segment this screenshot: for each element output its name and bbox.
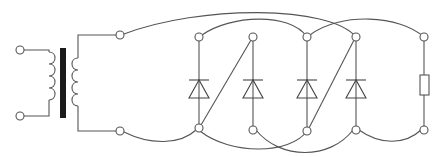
diode-2 xyxy=(243,40,263,127)
node-col4-bottom xyxy=(352,126,360,134)
output-terminal-top xyxy=(420,33,428,41)
wire-bottom-arc-1 xyxy=(124,130,196,142)
load-resistor xyxy=(420,40,429,127)
node-col4-top xyxy=(352,33,360,41)
secondary-winding xyxy=(72,35,117,131)
wire-diagonal-2 xyxy=(309,40,354,128)
diode-1 xyxy=(189,40,209,125)
diode-4 xyxy=(346,40,366,127)
output-terminal-bottom xyxy=(420,126,428,134)
diode-3 xyxy=(297,40,317,128)
transformer-core xyxy=(60,48,66,118)
wire-bottom-arc-4 xyxy=(359,130,421,141)
input-terminal-top xyxy=(16,46,24,54)
node-col1-bottom xyxy=(195,124,203,132)
node-col2-top xyxy=(249,33,257,41)
wire-diagonal-1 xyxy=(201,40,251,125)
circuit-diagram xyxy=(0,0,442,157)
node-col3-bottom xyxy=(303,127,311,135)
wire-top-arc-outer xyxy=(124,13,356,37)
node-col1-top xyxy=(195,33,203,41)
input-terminal-bottom xyxy=(16,112,24,120)
secondary-terminal-top xyxy=(116,31,124,39)
secondary-terminal-bottom xyxy=(116,127,124,135)
node-col3-top xyxy=(303,33,311,41)
wire-arc-col3-out xyxy=(310,19,424,37)
node-col2-bottom xyxy=(249,126,257,134)
primary-winding xyxy=(24,50,55,116)
